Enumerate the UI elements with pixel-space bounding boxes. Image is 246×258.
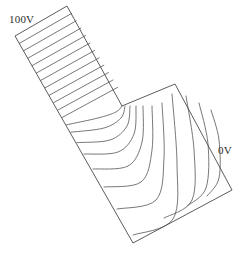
equipotential-figure: 100V 0V xyxy=(0,0,246,258)
low-potential-label: 0V xyxy=(218,144,232,156)
equipotential-12 xyxy=(67,106,122,125)
equipotential-14 xyxy=(77,106,130,143)
equipotential-20 xyxy=(164,96,195,218)
equipotential-08 xyxy=(49,65,103,95)
equipotential-18 xyxy=(117,103,164,209)
equipotential-diagram-svg xyxy=(0,0,246,258)
equipotential-13 xyxy=(71,106,125,132)
equipotential-06 xyxy=(41,50,95,80)
equipotential-11 xyxy=(62,87,117,117)
equipotential-04 xyxy=(32,36,85,66)
strip-boundary-outline xyxy=(15,6,232,243)
equipotential-lines-group xyxy=(19,13,220,235)
high-potential-label: 100V xyxy=(9,13,34,25)
equipotential-02 xyxy=(24,21,77,51)
equipotential-21 xyxy=(187,103,209,206)
equipotential-17 xyxy=(104,106,153,187)
equipotential-07 xyxy=(45,58,99,88)
equipotential-05 xyxy=(37,43,91,73)
equipotential-03 xyxy=(28,28,81,58)
equipotential-10 xyxy=(58,80,113,110)
equipotential-19 xyxy=(133,94,178,235)
equipotential-09 xyxy=(54,73,109,103)
